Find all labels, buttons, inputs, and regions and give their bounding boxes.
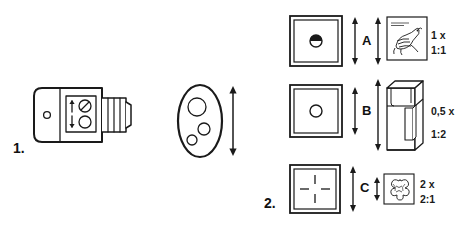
panel-circle-lower (79, 116, 91, 128)
illustration-canvas: 1. A (0, 0, 461, 228)
open-circle (310, 105, 322, 117)
section-a-quantity: 1 x (431, 28, 446, 42)
section-c-quantity: 2 x (420, 177, 435, 191)
threaded-nozzle (102, 98, 131, 132)
oval-gasket (172, 83, 228, 159)
oval-hole-small (187, 135, 197, 145)
square-plate-a (288, 14, 344, 68)
section-a-scale: 1:1 (431, 43, 446, 57)
section-c-scale: 2:1 (420, 192, 435, 206)
vertical-double-arrow (226, 84, 240, 158)
square-plate-c (288, 163, 342, 215)
section-c-letter: C (360, 181, 369, 194)
oval-hole-large (188, 98, 206, 116)
oval-hole-medium (198, 123, 210, 135)
dimension-arrow-c (347, 165, 359, 213)
section-b-letter: B (362, 104, 371, 117)
section-b-scale: 1:2 (431, 127, 446, 141)
canister-body (383, 78, 431, 154)
dimension-arrow-a2 (372, 16, 384, 66)
square-plate-b (288, 83, 344, 139)
canister-window (405, 108, 413, 140)
bird-stamp (385, 15, 429, 62)
section-b-quantity: 0,5 x (431, 104, 454, 118)
connector-port-hole (44, 112, 51, 119)
flower-stamp (382, 172, 416, 206)
oval-outline (178, 85, 222, 157)
dimension-arrow-b (349, 86, 361, 136)
section-a-letter: A (362, 34, 371, 47)
step-2-label: 2. (264, 196, 276, 210)
step-1-label: 1. (13, 141, 25, 155)
half-filled-circle (310, 35, 322, 47)
connector-assembly (30, 84, 140, 146)
dimension-arrow-a (349, 16, 361, 66)
